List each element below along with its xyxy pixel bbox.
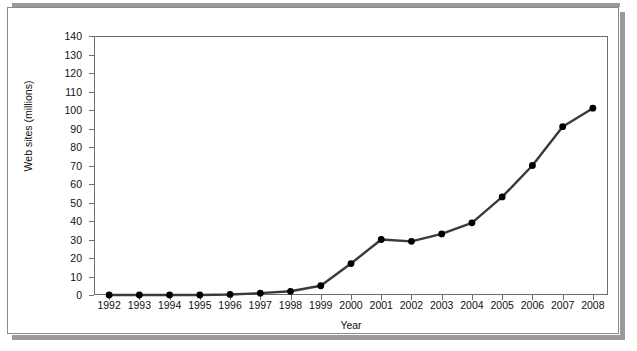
series-line-web-sites bbox=[109, 108, 593, 295]
data-point-2005 bbox=[499, 194, 506, 201]
data-point-1997 bbox=[257, 290, 264, 297]
data-point-2006 bbox=[529, 162, 536, 169]
data-point-2001 bbox=[378, 236, 385, 243]
data-point-2002 bbox=[408, 238, 415, 245]
series-marker-group bbox=[106, 105, 597, 299]
data-point-1995 bbox=[196, 292, 203, 299]
data-point-2008 bbox=[589, 105, 596, 112]
line-chart: Web sites (millions) 0102030405060708090… bbox=[8, 8, 620, 335]
data-point-1999 bbox=[317, 282, 324, 289]
figure-frame: Web sites (millions) 0102030405060708090… bbox=[7, 7, 619, 334]
figure-shadow-bottom bbox=[12, 335, 625, 340]
data-point-1993 bbox=[136, 292, 143, 299]
data-point-1992 bbox=[106, 292, 113, 299]
x-axis-title: Year bbox=[94, 319, 608, 331]
data-point-1998 bbox=[287, 288, 294, 295]
data-point-2000 bbox=[348, 260, 355, 267]
figure-shadow-right bbox=[620, 12, 625, 339]
data-point-2007 bbox=[559, 123, 566, 130]
data-point-1994 bbox=[166, 292, 173, 299]
series-layer bbox=[8, 8, 620, 335]
data-point-1996 bbox=[227, 291, 234, 298]
data-point-2003 bbox=[438, 231, 445, 238]
data-point-2004 bbox=[469, 219, 476, 226]
